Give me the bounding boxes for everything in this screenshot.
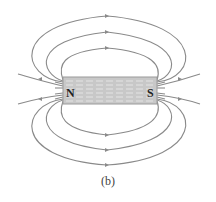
arrow-icon (105, 163, 109, 167)
south-pole-label: S (147, 86, 154, 100)
north-pole-label: N (66, 86, 75, 100)
arrow-icon (105, 148, 109, 152)
figure-caption: (b) (0, 174, 216, 189)
field-line-bottom-middle (46, 100, 171, 150)
field-line-bottom-inner (61, 101, 158, 135)
arrow-icon (105, 14, 109, 18)
bar-magnet: N S (63, 77, 157, 104)
arrow-icon (38, 97, 42, 101)
bar-magnet-field-diagram: N S (0, 0, 216, 202)
arrow-icon (178, 97, 182, 101)
arrow-icon (105, 133, 109, 137)
arrow-icon (105, 30, 109, 34)
field-line-top-inner (61, 48, 158, 80)
field-line-top-middle (46, 32, 171, 81)
arrow-icon (105, 46, 109, 50)
